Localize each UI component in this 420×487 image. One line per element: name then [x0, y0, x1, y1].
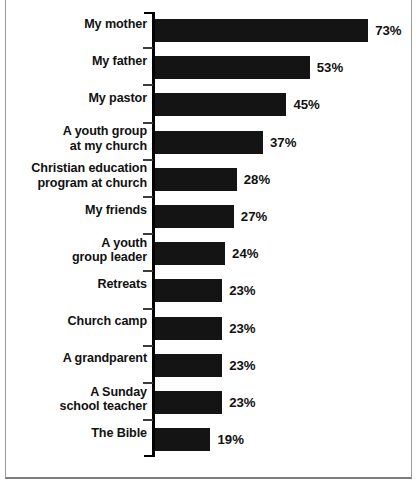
category-label: My father — [17, 54, 147, 69]
category-label: A youth groupat my church — [17, 124, 147, 153]
category-label-line2: at my church — [17, 139, 147, 154]
bar — [155, 279, 222, 302]
bar-row: A youthgroup leader24% — [0, 235, 420, 272]
bar-value-label: 27% — [241, 205, 267, 228]
category-label: My friends — [17, 203, 147, 218]
bar — [155, 168, 237, 191]
bar-value-label: 53% — [317, 56, 343, 79]
category-label: Church camp — [17, 314, 147, 329]
category-label: A youthgroup leader — [17, 236, 147, 265]
category-label: My pastor — [17, 91, 147, 106]
bar — [155, 317, 222, 340]
category-label: My mother — [17, 17, 147, 32]
category-label: The Bible — [17, 426, 147, 441]
horizontal-bar-chart: My mother73%My father53%My pastor45%A yo… — [0, 0, 420, 487]
bar — [155, 131, 263, 154]
bar-value-label: 73% — [375, 19, 401, 42]
bar-row: Church camp23% — [0, 310, 420, 347]
bar-value-label: 23% — [229, 391, 255, 414]
bar-value-label: 24% — [232, 242, 258, 265]
bar-value-label: 28% — [244, 168, 270, 191]
bar-value-label: 19% — [217, 428, 243, 451]
bar-row: The Bible19% — [0, 421, 420, 458]
bar-row: A youth groupat my church37% — [0, 124, 420, 161]
bar-row: A Sundayschool teacher23% — [0, 384, 420, 421]
category-label: A Sundayschool teacher — [17, 385, 147, 414]
bar-value-label: 23% — [229, 279, 255, 302]
bar-row: My mother73% — [0, 12, 420, 49]
category-label-line2: group leader — [17, 250, 147, 265]
bar — [155, 354, 222, 377]
bar — [155, 391, 222, 414]
bar — [155, 205, 234, 228]
bar-row: Christian educationprogram at church28% — [0, 161, 420, 198]
bar-value-label: 37% — [270, 131, 296, 154]
bar-row: Retreats23% — [0, 272, 420, 309]
bar-row: My friends27% — [0, 198, 420, 235]
category-label-line2: program at church — [17, 176, 147, 191]
bar — [155, 93, 286, 116]
bar-row: My father53% — [0, 49, 420, 86]
bar-row: My pastor45% — [0, 86, 420, 123]
bar — [155, 56, 310, 79]
bar — [155, 242, 225, 265]
bar-value-label: 23% — [229, 317, 255, 340]
bar — [155, 428, 210, 451]
bar-row: A grandparent23% — [0, 347, 420, 384]
bar-value-label: 45% — [293, 93, 319, 116]
category-label: Christian educationprogram at church — [17, 161, 147, 190]
bar-value-label: 23% — [229, 354, 255, 377]
bar — [155, 19, 368, 42]
category-label-line2: school teacher — [17, 399, 147, 414]
category-label: Retreats — [17, 277, 147, 292]
category-label: A grandparent — [17, 351, 147, 366]
